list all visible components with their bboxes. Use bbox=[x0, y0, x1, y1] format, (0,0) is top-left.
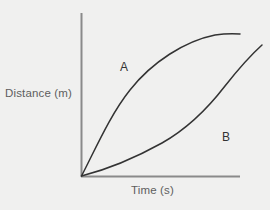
curve-b-label: B bbox=[222, 130, 230, 144]
curve-b-path bbox=[82, 45, 263, 176]
plot-canvas bbox=[0, 0, 270, 210]
y-axis-label: Distance (m) bbox=[5, 87, 72, 99]
curve-a-path bbox=[82, 34, 241, 176]
x-axis-label: Time (s) bbox=[131, 184, 174, 196]
curve-a-label: A bbox=[120, 60, 128, 74]
graph-figure: Distance (m) Time (s) A B bbox=[0, 0, 270, 210]
